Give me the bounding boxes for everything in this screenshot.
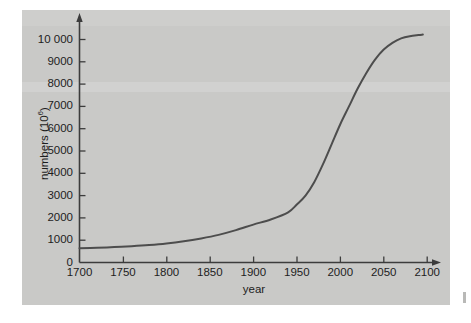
y-tick-label-2000: 2000 — [0, 212, 73, 224]
x-tick-marks — [123, 257, 427, 263]
page-edge-artifact — [463, 292, 466, 303]
y-axis-title-base: numbers (10 — [38, 115, 50, 180]
y-axis-title-close: ) — [38, 107, 50, 111]
y-tick-label-8000: 8000 — [0, 78, 73, 90]
x-tick-label-1850: 1850 — [197, 267, 223, 279]
y-tick-label-3000: 3000 — [0, 190, 73, 202]
y-axis-arrowhead — [76, 13, 82, 22]
y-tick-label-0: 0 — [0, 257, 73, 269]
y-axis-title: numbers (106) — [38, 107, 50, 180]
y-tick-label-4000: 4000 — [0, 168, 73, 180]
x-tick-label-1700: 1700 — [67, 267, 93, 279]
x-tick-label-1950: 1950 — [284, 267, 310, 279]
y-tick-label-10000: 10 000 — [0, 34, 73, 46]
y-axis-title-exponent: 6 — [36, 111, 45, 115]
y-tick-label-6000: 6000 — [0, 123, 73, 135]
x-tick-label-1900: 1900 — [241, 267, 267, 279]
data-curve-world-population — [80, 35, 423, 249]
y-tick-label-5000: 5000 — [0, 145, 73, 157]
x-axis-arrowhead — [432, 259, 441, 265]
y-tick-marks — [80, 40, 86, 241]
x-tick-label-2100: 2100 — [414, 267, 440, 279]
y-tick-label-1000: 1000 — [0, 234, 73, 246]
x-tick-label-1750: 1750 — [110, 267, 136, 279]
x-axis-title: year — [243, 283, 265, 295]
x-tick-label-2000: 2000 — [327, 267, 353, 279]
y-tick-label-9000: 9000 — [0, 56, 73, 68]
x-tick-label-1800: 1800 — [154, 267, 180, 279]
figure-container: 010002000300040005000600070008000900010 … — [0, 0, 471, 323]
x-tick-label-2050: 2050 — [371, 267, 397, 279]
